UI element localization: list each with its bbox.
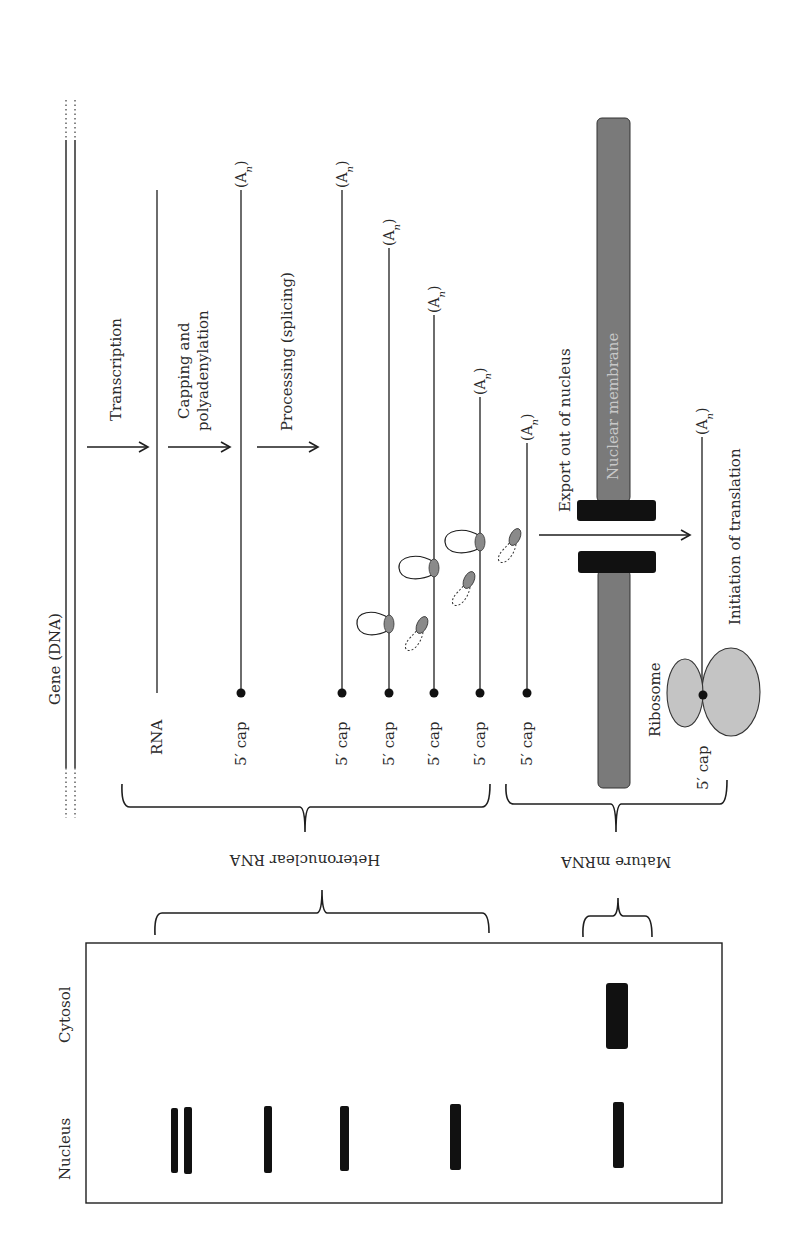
brace-hetero-top [122, 784, 490, 832]
ribosome-large-subunit [702, 648, 760, 736]
step-transcription-label: Transcription [107, 318, 125, 421]
polya-labels: (An) (An) (An) (An) (An) (An) (An) [233, 161, 715, 442]
svg-text:5′ cap: 5′ cap [518, 721, 536, 766]
lane-label-cytosol: Cytosol [56, 986, 74, 1043]
brace-hetero-bottom [155, 890, 489, 935]
step-capping-label-line1: Capping and [175, 322, 193, 419]
svg-text:(An): (An) [426, 286, 447, 314]
band-nucleus-1 [171, 1108, 178, 1173]
band-nucleus-6 [613, 1102, 624, 1168]
band-nucleus-2 [184, 1107, 192, 1174]
gene-dna [66, 100, 75, 818]
svg-text:5′ cap: 5′ cap [380, 721, 398, 766]
svg-text:5′ cap: 5′ cap [333, 721, 351, 766]
svg-text:5′ cap: 5′ cap [694, 745, 712, 790]
membrane-label: Nuclear membrane [604, 333, 622, 480]
brace-mature-bottom [583, 898, 652, 937]
band-nucleus-5 [450, 1104, 461, 1170]
nuclear-pore-top [577, 500, 656, 521]
step-processing-label: Processing (splicing) [278, 272, 296, 431]
svg-text:(An): (An) [381, 219, 402, 247]
northern-blot [86, 943, 722, 1203]
nuclear-pore-bottom [578, 551, 656, 573]
svg-text:(An): (An) [694, 408, 715, 436]
transcript-unspliced [338, 190, 347, 698]
ribosome-label: Ribosome [646, 662, 664, 737]
svg-text:5′ cap: 5′ cap [471, 721, 489, 766]
step-export-label: Export out of nucleus [556, 348, 574, 512]
svg-text:(An): (An) [233, 161, 254, 189]
step-capping-label-line2: polyadenylation [194, 310, 212, 431]
band-cytosol-1 [606, 983, 628, 1049]
svg-text:(An): (An) [519, 414, 540, 442]
transcript-capped [237, 190, 246, 698]
ribosome-small-subunit [667, 659, 703, 727]
band-nucleus-3 [264, 1106, 272, 1173]
cap-labels: 5′ cap 5′ cap 5′ cap 5′ cap 5′ cap 5′ ca… [232, 721, 712, 790]
svg-text:5′ cap: 5′ cap [232, 721, 250, 766]
hetero-group-label: Heteronuclear RNA [230, 851, 381, 869]
mature-group-label: Mature mRNA [561, 853, 671, 871]
gene-label: Gene (DNA) [46, 613, 64, 705]
rna-label: RNA [148, 720, 166, 755]
svg-text:(An): (An) [334, 161, 355, 189]
step-translation-label: Initiation of translation [726, 448, 744, 625]
band-nucleus-4 [340, 1106, 349, 1171]
transcript-splice-2 [430, 315, 439, 698]
svg-text:(An): (An) [472, 368, 493, 396]
transcript-spliced [523, 443, 532, 698]
lane-label-nucleus: Nucleus [56, 1118, 74, 1180]
svg-text:5′ cap: 5′ cap [425, 721, 443, 766]
rna-processing-diagram: Gene (DNA) Transcription Capping and pol… [0, 0, 794, 1260]
ribosome [667, 648, 760, 736]
